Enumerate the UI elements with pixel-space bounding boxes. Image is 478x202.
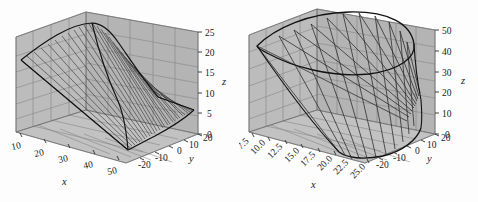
y-tick-label: 10 xyxy=(189,140,199,150)
x-axis-title: x xyxy=(61,176,67,187)
x-tick-label: 25.0 xyxy=(348,161,367,180)
x-tick-label: 50 xyxy=(106,165,118,177)
y-tick-label: 10 xyxy=(427,140,437,150)
z-tick-label: 40 xyxy=(442,47,452,57)
z-axis-title: z xyxy=(221,76,226,87)
z-tick-label: 15 xyxy=(205,68,215,78)
left-surface-plot: 25 20 15 10 5 0 z 20 10 0 xyxy=(0,0,239,202)
y-tick-label: -10 xyxy=(393,153,406,163)
x-tick-label: 30 xyxy=(57,153,69,165)
y-tick-label: 20 xyxy=(203,133,213,143)
y-tick-label: 20 xyxy=(441,133,451,143)
z-tick-label: 5 xyxy=(207,109,212,119)
z-tick-label: 20 xyxy=(442,88,452,98)
x-tick-label: 40 xyxy=(82,159,94,171)
y-axis-title: y xyxy=(188,153,194,164)
y-tick-label: -20 xyxy=(376,160,389,170)
left-plot-panes xyxy=(16,12,198,163)
z-axis-title: z xyxy=(460,75,465,86)
y-tick-label: -20 xyxy=(138,160,151,170)
y-tick-label: 0 xyxy=(177,146,182,156)
x-axis-title: x xyxy=(310,179,316,190)
y-tick-label: -10 xyxy=(155,153,168,163)
right-plot-panes xyxy=(249,9,435,163)
x-tick-label: 20 xyxy=(33,147,45,159)
z-tick-label: 25 xyxy=(205,28,215,38)
y-tick-label: 0 xyxy=(415,146,420,156)
z-tick-label: 20 xyxy=(205,48,215,58)
z-tick-label: 50 xyxy=(442,26,452,36)
z-tick-label: 30 xyxy=(442,68,452,78)
z-tick-label: 10 xyxy=(442,109,452,119)
left-z-axis: 25 20 15 10 5 0 z xyxy=(198,28,226,140)
right-surface-plot: 50 40 30 20 10 0 z 20 10 0 xyxy=(239,0,478,202)
figure-canvas: 25 20 15 10 5 0 z 20 10 0 xyxy=(0,0,478,202)
x-tick-label: 10 xyxy=(10,140,22,152)
z-tick-label: 10 xyxy=(205,89,215,99)
right-z-axis: 50 40 30 20 10 0 z xyxy=(435,26,465,140)
y-axis-title: y xyxy=(426,153,432,164)
